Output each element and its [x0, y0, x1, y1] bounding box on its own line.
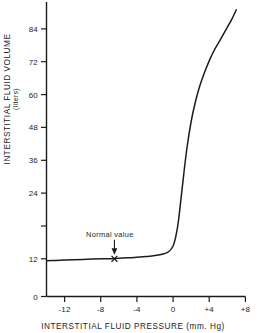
y-tick-label-0: 0: [16, 292, 38, 301]
y-tick-label-12: 12: [16, 254, 38, 263]
x-tick-label-minus12: -12: [59, 305, 71, 314]
y-tick-marks: [41, 29, 47, 297]
normal-value-arrow: [112, 240, 118, 255]
y-axis-title: INTERSTITIAL FLUID VOLUME: [3, 0, 12, 199]
x-tick-label-zero: 0: [171, 305, 176, 314]
x-tick-label-minus4: -4: [133, 305, 141, 314]
y-axis-units-label: (liters): [12, 0, 19, 199]
chart-plot-area: [0, 0, 266, 333]
data-curve: [47, 10, 237, 261]
x-tick-label-plus8: +8: [241, 305, 251, 314]
x-axis-title: INTERSTITIAL FLUID PRESSURE (mm. Hg): [0, 322, 266, 331]
normal-value-annotation-label: Normal value: [86, 230, 134, 239]
x-tick-label-plus4: +4: [204, 305, 214, 314]
x-tick-marks: [65, 297, 246, 303]
x-tick-label-minus8: -8: [97, 305, 105, 314]
y-axis-title-group: INTERSTITIAL FLUID VOLUME (liters): [3, 0, 29, 199]
chart-figure: 84 72 60 48 36 24 12 0 -12 -8 -4 0 +4 +8…: [0, 0, 266, 333]
